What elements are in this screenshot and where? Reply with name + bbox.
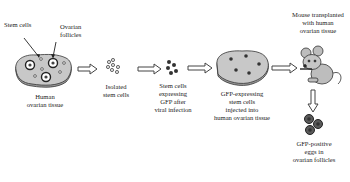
isolated-stem-cells-icon	[106, 58, 119, 73]
ovarian-follicles-callout: Ovarian follicles	[60, 23, 81, 39]
stage-label-tissue: Human ovarian tissue	[20, 93, 70, 109]
stage-label-eggs: GFP-positive eggs in ovarian follicles	[284, 140, 344, 164]
ovarian-tissue-icon	[16, 38, 72, 87]
mouse-icon	[300, 46, 341, 84]
stage-label-injected: GFP-expressing stem cells injected into …	[208, 90, 276, 122]
gfp-eggs-icon	[305, 115, 323, 135]
stage-label-gfp: Stem cells expressing GFP after viral in…	[147, 82, 199, 114]
stage-label-mouse: Mouse transplanted with human ovarian ti…	[286, 11, 350, 35]
injected-tissue-icon	[217, 51, 268, 86]
stage-label-isolated: Isolated stem cells	[94, 83, 138, 99]
stem-cells-callout: Stem cells	[4, 21, 31, 29]
gfp-stem-cells-icon	[166, 60, 178, 75]
